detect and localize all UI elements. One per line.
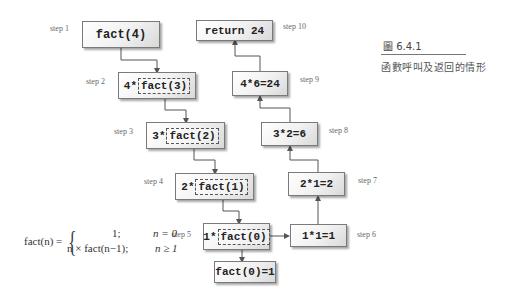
fact-4-box: fact(4) bbox=[82, 21, 160, 48]
step-2-prefix: 4* bbox=[124, 80, 137, 92]
step-7-text: 2*1=2 bbox=[300, 178, 333, 190]
step-4-box: 2* fact(1) bbox=[175, 173, 254, 200]
step-4-label: step 4 bbox=[144, 177, 163, 186]
figure-number: 圖 6.4.1 bbox=[383, 38, 422, 53]
step-5-prefix: 1* bbox=[203, 231, 216, 243]
step-8-text: 3*2=6 bbox=[273, 128, 306, 140]
step-3-prefix: 3* bbox=[152, 130, 165, 142]
step-6-box: 1*1=1 bbox=[290, 224, 347, 247]
return-text: return 24 bbox=[205, 25, 264, 37]
fact-4-text: fact(4) bbox=[96, 28, 146, 42]
step-7-box: 2*1=2 bbox=[288, 172, 345, 196]
step-8-box: 3*2=6 bbox=[261, 122, 318, 146]
recursion-diagram: step 1 fact(4) step 2 4* fact(3) step 3 … bbox=[0, 0, 508, 300]
step-3-call: fact(2) bbox=[166, 128, 218, 144]
step-6-label: step 6 bbox=[357, 230, 376, 239]
formula-case2-value: n × fact(n−1); bbox=[67, 242, 128, 254]
formula-case2-cond: n ≥ 1 bbox=[155, 242, 178, 254]
step-1-label: step 1 bbox=[50, 24, 69, 33]
step-5-box: 1* fact(0) bbox=[203, 223, 270, 250]
return-box: return 24 bbox=[196, 20, 273, 41]
step-5-call: fact(0) bbox=[218, 229, 270, 245]
formula-case1-cond: n = 0 bbox=[153, 227, 177, 239]
step-2-call: fact(3) bbox=[138, 78, 190, 94]
step-8-label: step 8 bbox=[329, 126, 348, 135]
step-3-box: 3* fact(2) bbox=[146, 122, 225, 149]
step-6-text: 1*1=1 bbox=[302, 230, 335, 242]
step-7-label: step 7 bbox=[358, 176, 377, 185]
caption-divider bbox=[381, 54, 466, 55]
step-9-box: 4*6=24 bbox=[232, 71, 288, 96]
step-2-label: step 2 bbox=[86, 77, 105, 86]
step-2-box: 4* fact(3) bbox=[118, 72, 196, 99]
base-case-box: fact(0)=1 bbox=[214, 261, 276, 283]
step-9-label: step 9 bbox=[300, 75, 319, 84]
base-case-text: fact(0)=1 bbox=[215, 266, 274, 278]
step-4-call: fact(1) bbox=[195, 179, 247, 195]
figure-caption: 函數呼叫及返回的情形 bbox=[381, 59, 486, 74]
step-10-label: step 10 bbox=[283, 22, 306, 31]
step-9-text: 4*6=24 bbox=[240, 78, 280, 90]
step-3-label: step 3 bbox=[114, 127, 133, 136]
step-4-prefix: 2* bbox=[181, 181, 194, 193]
formula-case1-value: 1; bbox=[112, 227, 121, 239]
formula-lhs: fact(n) = bbox=[24, 235, 62, 247]
